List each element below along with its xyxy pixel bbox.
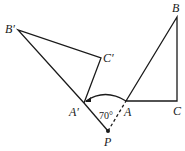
label-a-prime: A′ — [68, 105, 79, 119]
angle-label: 70° — [99, 110, 113, 121]
triangle-abc — [126, 17, 177, 101]
label-a: A — [123, 105, 132, 119]
label-b: B — [172, 1, 180, 15]
label-p: P — [103, 135, 112, 149]
rotation-arc — [86, 95, 126, 102]
label-c: C — [173, 104, 182, 118]
label-c-prime: C′ — [103, 51, 114, 65]
rotation-diagram: B′ C′ A′ A B C P 70° — [0, 0, 185, 151]
center-point-p — [106, 129, 110, 133]
label-b-prime: B′ — [5, 22, 15, 36]
triangle-a-prime-b-prime-c-prime — [18, 30, 101, 103]
